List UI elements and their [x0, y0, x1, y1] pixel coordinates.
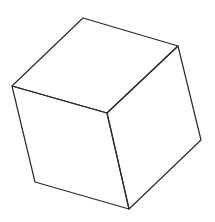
cube	[12, 18, 201, 209]
cube-right-face	[107, 46, 201, 209]
cube-drawing	[0, 0, 215, 222]
cube-top-face	[12, 18, 178, 113]
cube-left-face	[12, 86, 129, 209]
